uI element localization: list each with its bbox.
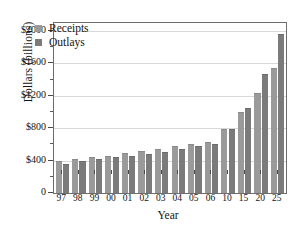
y-axis-tick-minor <box>50 79 53 80</box>
x-axis-tick <box>210 170 211 174</box>
x-axis-tick <box>177 170 178 174</box>
bar-outlays <box>212 144 218 193</box>
bar-outlays <box>162 152 168 193</box>
x-axis-tick <box>227 170 228 174</box>
bar-receipts <box>72 159 78 193</box>
legend-label-outlays: Outlays <box>49 35 85 49</box>
bar-receipts <box>188 144 194 193</box>
x-axis-tick <box>61 170 62 174</box>
bar-receipts <box>205 142 211 193</box>
y-axis-tick-label: $800 <box>0 122 46 132</box>
x-axis-tick <box>277 170 278 174</box>
y-axis-tick-major <box>48 62 53 63</box>
legend-item-receipts: Receipts <box>35 21 89 35</box>
bar-outlays <box>79 161 85 193</box>
bar-outlays <box>195 146 201 193</box>
bar-receipts <box>89 157 95 193</box>
bar-receipts <box>271 68 277 193</box>
bar-receipts <box>221 129 227 193</box>
x-axis-title: Year <box>50 209 286 221</box>
x-axis-tick <box>78 170 79 174</box>
legend-label-receipts: Receipts <box>49 21 89 35</box>
y-axis-tick-major <box>48 192 53 193</box>
legend-swatch-icon-receipts <box>35 25 42 32</box>
x-axis-tick <box>111 170 112 174</box>
gridline <box>54 63 286 64</box>
legend-item-outlays: Outlays <box>35 35 89 49</box>
bar-receipts <box>56 161 62 193</box>
y-axis-tick-major <box>48 127 53 128</box>
y-axis-tick-minor <box>50 143 53 144</box>
x-axis-tick <box>144 170 145 174</box>
bar-outlays <box>262 74 268 193</box>
gridline <box>54 96 286 97</box>
y-axis-tick-label: $1200 <box>0 90 46 100</box>
x-axis-tick <box>244 170 245 174</box>
bar-outlays <box>129 156 135 193</box>
chart-legend: Receipts Outlays <box>35 21 89 49</box>
x-axis-tick <box>94 170 95 174</box>
bar-outlays <box>96 159 102 193</box>
bar-outlays <box>229 129 235 193</box>
bar-outlays <box>146 154 152 193</box>
bar-outlays <box>63 164 69 193</box>
x-axis-tick-label: 25 <box>265 194 289 204</box>
y-axis-tick-label: 0 <box>0 187 46 197</box>
y-axis-tick-label: $1600 <box>0 57 46 67</box>
x-axis-tick <box>260 170 261 174</box>
bar-outlays <box>179 149 185 193</box>
y-axis-tick-label: $400 <box>0 155 46 165</box>
x-axis-tick <box>161 170 162 174</box>
bar-chart-figure: Dollars (billions) 0$400$800$1200$1600$2… <box>0 0 293 228</box>
y-axis-tick-minor <box>50 176 53 177</box>
bar-outlays <box>278 34 284 193</box>
bar-receipts <box>238 112 244 193</box>
y-axis-tick-major <box>48 95 53 96</box>
bar-receipts <box>105 156 111 193</box>
legend-swatch-icon-outlays <box>35 39 42 46</box>
bar-receipts <box>254 93 260 193</box>
x-axis-tick <box>128 170 129 174</box>
y-axis-tick-major <box>48 160 53 161</box>
bar-outlays <box>245 108 251 193</box>
y-axis-tick-minor <box>50 111 53 112</box>
bar-outlays <box>113 157 119 193</box>
x-axis-tick <box>194 170 195 174</box>
